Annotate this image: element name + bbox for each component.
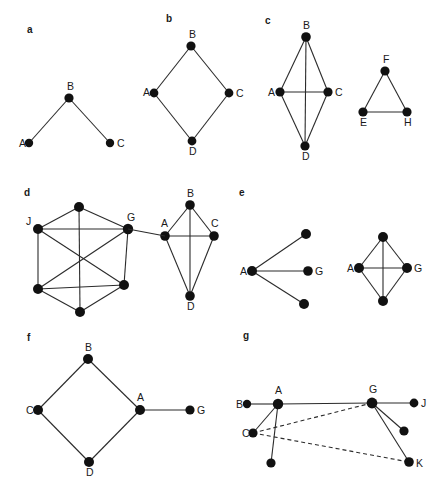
node-dot-B bbox=[83, 354, 93, 364]
node-dot bbox=[75, 307, 85, 317]
node-dot bbox=[74, 202, 84, 212]
node-dot-G bbox=[185, 405, 194, 414]
node-label-J: J bbox=[421, 397, 426, 409]
node-dot-A bbox=[273, 399, 283, 409]
node-label-A: A bbox=[240, 265, 247, 277]
node-label-D: D bbox=[86, 466, 94, 478]
node-label-G: G bbox=[127, 211, 135, 223]
node-dot-G bbox=[402, 263, 412, 273]
node-dot-B bbox=[64, 93, 73, 102]
node-label-C: C bbox=[117, 137, 125, 149]
node-label-D: D bbox=[302, 150, 310, 162]
node-label-C: C bbox=[26, 404, 34, 416]
node-label-K: K bbox=[416, 457, 423, 469]
node-label-A: A bbox=[137, 391, 144, 403]
node-dot bbox=[399, 426, 408, 435]
node-label-E: E bbox=[360, 116, 367, 128]
panel-letter-c: c bbox=[265, 15, 271, 26]
node-label-C: C bbox=[236, 87, 244, 99]
node-dot bbox=[301, 229, 311, 239]
node-label-B: B bbox=[67, 80, 74, 92]
node-label-B: B bbox=[85, 341, 92, 353]
node-label-G: G bbox=[369, 383, 377, 395]
node-dot-G bbox=[367, 398, 378, 409]
node-label-B: B bbox=[187, 187, 194, 199]
node-dot-B bbox=[243, 400, 251, 408]
node-label-C: C bbox=[211, 217, 219, 229]
node-label-J: J bbox=[26, 215, 31, 227]
node-dot-A bbox=[150, 89, 159, 98]
node-label-A: A bbox=[161, 217, 168, 229]
panel-letter-e: e bbox=[239, 187, 245, 198]
node-dot-A bbox=[275, 87, 284, 96]
node-dot-C bbox=[106, 139, 114, 147]
panel-letter-b: b bbox=[166, 13, 172, 24]
node-dot-A bbox=[135, 405, 145, 415]
node-label-B: B bbox=[303, 19, 310, 31]
node-label-H: H bbox=[404, 116, 412, 128]
node-dot-A bbox=[25, 139, 33, 147]
node-label-A: A bbox=[347, 262, 354, 274]
node-dot-C bbox=[33, 405, 43, 415]
node-dot-G bbox=[303, 266, 313, 276]
node-dot-B bbox=[301, 32, 311, 42]
node-label-A: A bbox=[19, 137, 26, 149]
node-dot bbox=[378, 296, 388, 306]
node-dot-K bbox=[404, 457, 414, 467]
node-dot-J bbox=[33, 224, 43, 234]
panel-letter-a: a bbox=[27, 24, 33, 35]
node-dot-B bbox=[185, 200, 195, 210]
node-dot-C bbox=[248, 428, 257, 437]
figure-background bbox=[0, 0, 436, 498]
node-dot-C bbox=[209, 231, 219, 241]
node-dot-B bbox=[186, 41, 195, 50]
node-dot-A bbox=[247, 266, 257, 276]
node-dot-J bbox=[410, 399, 419, 408]
node-label-G: G bbox=[414, 262, 422, 274]
node-label-D: D bbox=[189, 145, 197, 157]
panel-letter-d: d bbox=[24, 187, 30, 198]
panel-letter-g: g bbox=[243, 330, 249, 341]
node-dot bbox=[378, 232, 388, 242]
node-label-A: A bbox=[268, 86, 275, 98]
node-dot bbox=[299, 299, 309, 309]
node-label-B: B bbox=[189, 28, 196, 40]
graph-figure: aABCbBACDcBACDFEHdJGBACDeAGAGfBCADGgBAGJ… bbox=[0, 0, 436, 498]
node-label-A: A bbox=[143, 86, 150, 98]
node-dot bbox=[33, 284, 43, 294]
node-label-D: D bbox=[187, 300, 195, 312]
node-label-F: F bbox=[383, 53, 389, 65]
node-label-A: A bbox=[275, 384, 282, 396]
node-dot bbox=[119, 280, 129, 290]
node-dot-A bbox=[354, 263, 364, 273]
node-label-G: G bbox=[315, 265, 323, 277]
node-dot-C bbox=[323, 87, 332, 96]
node-label-B: B bbox=[236, 398, 243, 410]
node-label-C: C bbox=[242, 427, 250, 439]
node-label-C: C bbox=[335, 86, 343, 98]
node-label-G: G bbox=[197, 404, 205, 416]
node-dot bbox=[266, 458, 275, 467]
node-dot-C bbox=[225, 89, 234, 98]
node-dot-F bbox=[380, 66, 389, 75]
